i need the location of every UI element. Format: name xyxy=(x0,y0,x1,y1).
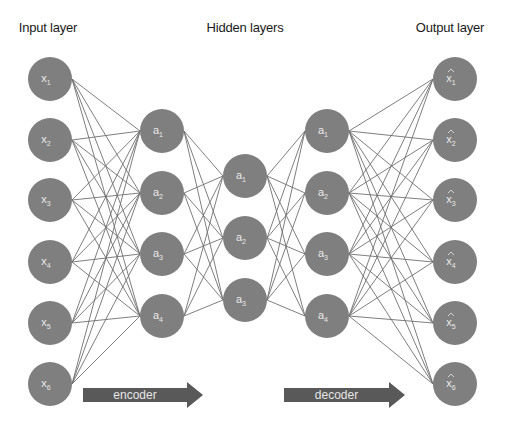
edge xyxy=(267,131,305,238)
node-input-6: x6 xyxy=(28,362,72,406)
encoder-label: encoder xyxy=(113,388,156,402)
node-hidden-encoder-2: a2 xyxy=(140,171,184,215)
node-hidden-decoder-2: a2 xyxy=(305,171,349,215)
edge xyxy=(184,238,223,316)
node-hidden-decoder-3: a3 xyxy=(305,232,349,276)
edge xyxy=(72,131,140,140)
node-output-4: x4 xyxy=(433,240,477,284)
edge xyxy=(72,131,140,262)
node-output-2: x2 xyxy=(433,118,477,162)
edge xyxy=(72,131,140,384)
node-bottleneck-2: a2 xyxy=(223,216,267,260)
edge xyxy=(349,79,433,193)
node-input-4: x4 xyxy=(28,240,72,284)
edge xyxy=(72,316,140,384)
node-input-2: x2 xyxy=(28,118,72,162)
edge xyxy=(349,316,433,323)
autoencoder-diagram: x1x2x3x4x5x6a1a2a3a4a1a2a3a1a2a3a4x1x2x3… xyxy=(0,0,509,429)
node-hidden-decoder-4: a4 xyxy=(305,294,349,338)
node-input-3: x3 xyxy=(28,178,72,222)
node-hidden-decoder-1: a1 xyxy=(305,109,349,153)
node-bottleneck-3: a3 xyxy=(223,278,267,322)
edge xyxy=(184,176,223,193)
edge xyxy=(72,79,140,193)
edge xyxy=(267,254,305,300)
node-hidden-encoder-4: a4 xyxy=(140,294,184,338)
node-input-1: x1 xyxy=(28,57,72,101)
node-output-6: x6 xyxy=(433,362,477,406)
edge xyxy=(184,176,223,316)
edge xyxy=(184,300,223,316)
node-output-5: x5 xyxy=(433,301,477,345)
decoder-arrow: decoder xyxy=(284,382,405,408)
edge xyxy=(267,131,305,176)
edge xyxy=(349,254,433,384)
node-bottleneck-1: a1 xyxy=(223,154,267,198)
process-arrows: encoderdecoder xyxy=(83,382,405,408)
edge xyxy=(184,176,223,254)
node-hidden-encoder-1: a1 xyxy=(140,109,184,153)
edge xyxy=(349,200,433,316)
node-input-5: x5 xyxy=(28,301,72,345)
edge xyxy=(267,193,305,300)
edge xyxy=(267,300,305,316)
node-output-1: x1 xyxy=(433,57,477,101)
edge xyxy=(349,316,433,384)
node-hidden-encoder-3: a3 xyxy=(140,232,184,276)
encoder-arrow: encoder xyxy=(83,382,203,408)
node-output-3: x3 xyxy=(433,178,477,222)
edge xyxy=(267,131,305,300)
edge xyxy=(349,79,433,316)
edge xyxy=(72,254,140,384)
edge xyxy=(184,131,223,176)
decoder-label: decoder xyxy=(315,388,358,402)
